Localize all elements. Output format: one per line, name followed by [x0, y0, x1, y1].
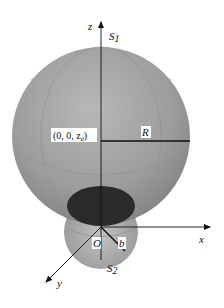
radius-b-label: b [118, 237, 126, 249]
x-axis-label: x [198, 233, 204, 245]
s1-label: S1 [109, 30, 120, 44]
s2-label: S2 [107, 262, 118, 276]
svg-text:R: R [141, 126, 149, 138]
diagram-canvas: z S1 (0, 0, zd) R O b x y S2 [0, 0, 224, 308]
origin-label: O [92, 237, 101, 249]
center-label: (0, 0, zd) [51, 128, 97, 142]
y-axis-label: y [56, 277, 62, 289]
svg-text:O: O [93, 237, 101, 249]
radius-R-label: R [141, 126, 151, 138]
svg-text:b: b [119, 237, 125, 249]
z-axis-label: z [87, 20, 93, 32]
